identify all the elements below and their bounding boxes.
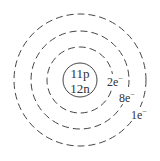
- shell-2-count: 8e: [119, 91, 130, 105]
- shell-1-label: 2e−: [107, 76, 123, 88]
- neutrons-label: 12n: [62, 81, 98, 96]
- shell-3-charge: −: [142, 107, 147, 116]
- shell-2-label: 8e−: [119, 92, 135, 104]
- protons-label: 11p: [62, 66, 98, 81]
- shell-2-charge: −: [130, 90, 135, 99]
- shell-3-label: 1e−: [131, 109, 147, 121]
- nucleus-label: 11p 12n: [62, 66, 98, 96]
- shell-1-count: 2e: [107, 75, 118, 89]
- shell-1-charge: −: [118, 74, 123, 83]
- shell-3-count: 1e: [131, 108, 142, 122]
